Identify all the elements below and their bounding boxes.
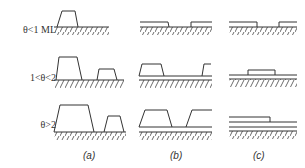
island-large	[56, 57, 82, 80]
island	[139, 64, 164, 76]
island	[202, 64, 211, 76]
monolayer-patch	[229, 22, 257, 27]
row2-col-b-panel	[139, 64, 212, 88]
row1-col-a-panel	[54, 11, 109, 35]
island-small	[97, 69, 117, 80]
substrate-hatch	[229, 79, 297, 87]
third-layer-patch	[229, 117, 270, 122]
monolayer-patch	[191, 22, 212, 27]
substrate-hatch	[54, 27, 109, 35]
row2-col-a-panel	[54, 57, 124, 88]
island	[139, 110, 172, 127]
substrate-hatch	[229, 131, 297, 139]
row3-col-a-panel	[54, 105, 126, 140]
island-large	[54, 105, 94, 132]
row3-col-c-panel	[229, 117, 297, 139]
substrate-hatch	[139, 132, 212, 140]
substrate-hatch	[54, 132, 126, 140]
row3-col-b-panel	[139, 110, 212, 140]
monolayer-patch	[140, 22, 169, 27]
row1-col-c-panel	[229, 22, 297, 35]
row1-col-b-panel	[140, 22, 212, 35]
substrate-hatch	[54, 80, 124, 88]
row-label-theta-1-to-2: 1<θ<2	[0, 72, 56, 83]
substrate-hatch	[140, 27, 212, 35]
column-label-b: (b)	[170, 150, 182, 161]
island-small	[104, 116, 124, 132]
second-layer-patch	[248, 70, 275, 75]
row-label-theta-lt-1: θ<1 ML	[0, 24, 56, 35]
island	[57, 11, 78, 27]
monolayer-patch	[279, 22, 297, 27]
substrate-hatch	[139, 80, 212, 88]
row2-col-c-panel	[229, 70, 297, 87]
column-label-c: (c)	[253, 150, 265, 161]
substrate-hatch	[229, 27, 297, 35]
column-label-a: (a)	[83, 150, 95, 161]
island	[186, 110, 212, 127]
row-label-theta-gt-2: θ>2	[0, 119, 56, 130]
